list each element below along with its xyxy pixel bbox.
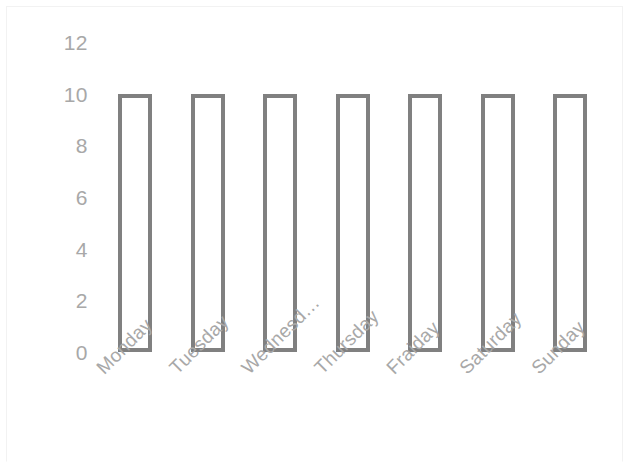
x-axis-tick-label: Thursday [311, 306, 382, 377]
x-axis-tick-label: Tuesday [166, 311, 232, 377]
x-axis: MondayTuesdayWednesd…ThursdayFraidaySatu… [0, 0, 629, 466]
x-axis-tick-label: Monday [93, 315, 156, 378]
x-axis-tick-label: Fraiday [383, 318, 443, 378]
x-axis-tick-label: Wednesd… [238, 292, 323, 377]
plot-area: 121086420 MondayTuesdayWednesd…ThursdayF… [0, 0, 629, 466]
x-axis-tick-label: Sunday [528, 317, 588, 377]
x-axis-tick-label: Saturday [456, 309, 525, 378]
bar-chart: 121086420 MondayTuesdayWednesd…ThursdayF… [0, 0, 629, 466]
